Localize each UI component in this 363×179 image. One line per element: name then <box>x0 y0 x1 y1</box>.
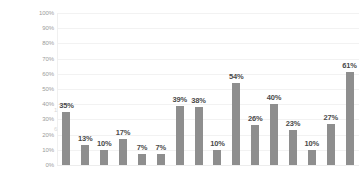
y-axis-tick-label: 30% <box>4 116 54 122</box>
bar <box>346 72 354 165</box>
bar <box>138 154 146 165</box>
bar-column <box>251 13 259 165</box>
bar-data-label: 10% <box>210 139 224 148</box>
bar-data-label: 39% <box>172 95 186 104</box>
bar <box>308 150 316 165</box>
y-axis-tick-label: 100% <box>4 10 54 16</box>
bar <box>176 106 184 165</box>
bar-column <box>195 13 203 165</box>
scan-artifact-lower: 6 <box>54 126 57 132</box>
bar-data-label: 10% <box>305 139 319 148</box>
bar <box>289 130 297 165</box>
bar-column <box>346 13 354 165</box>
bar-data-label: 27% <box>323 113 337 122</box>
bar <box>270 104 278 165</box>
bar-column <box>157 13 165 165</box>
bar-data-label: 10% <box>97 139 111 148</box>
y-axis-tick-label: 60% <box>4 71 54 77</box>
bar <box>213 150 221 165</box>
bar-data-label: 54% <box>229 72 243 81</box>
plot-area: 35%13%10%17%7%7%39%38%10%54%26%40%23%10%… <box>57 13 359 165</box>
y-axis-tick-label: 70% <box>4 56 54 62</box>
bar-data-label: 40% <box>267 93 281 102</box>
bar-data-label: 35% <box>59 101 73 110</box>
y-axis-tick-label: 10% <box>4 147 54 153</box>
bar <box>327 124 335 165</box>
bar <box>157 154 165 165</box>
bar <box>195 107 203 165</box>
bar-column <box>119 13 127 165</box>
bar-column <box>232 13 240 165</box>
bar-column <box>138 13 146 165</box>
bar-data-label: 26% <box>248 114 262 123</box>
y-axis-tick-label: 50% <box>4 86 54 92</box>
scan-artifact-upper: 1 <box>54 107 57 113</box>
gridline-0% <box>57 165 359 166</box>
bar-data-label: 7% <box>156 143 166 152</box>
bar <box>232 83 240 165</box>
bar-data-label: 23% <box>286 119 300 128</box>
bar <box>62 112 70 165</box>
y-axis-tick-label: 90% <box>4 25 54 31</box>
y-axis-tick-label: 40% <box>4 101 54 107</box>
bar-column <box>62 13 70 165</box>
bar-column <box>289 13 297 165</box>
bar-data-label: 17% <box>116 128 130 137</box>
bar-column <box>176 13 184 165</box>
bar-column <box>327 13 335 165</box>
bar <box>100 150 108 165</box>
y-axis-tick-label: 20% <box>4 132 54 138</box>
y-axis: 0%10%20%30%40%50%60%70%80%90%100% <box>0 13 54 165</box>
y-axis-tick-label: 0% <box>4 162 54 168</box>
y-axis-tick-label: 80% <box>4 40 54 46</box>
bar-data-label: 13% <box>78 134 92 143</box>
bar <box>81 145 89 165</box>
bar-data-label: 7% <box>137 143 147 152</box>
bar-data-label: 61% <box>342 61 356 70</box>
bar <box>251 125 259 165</box>
bar-chart-figure: 0%10%20%30%40%50%60%70%80%90%100% 35%13%… <box>0 0 363 179</box>
bar-data-label: 38% <box>191 96 205 105</box>
bar <box>119 139 127 165</box>
bar-column <box>270 13 278 165</box>
